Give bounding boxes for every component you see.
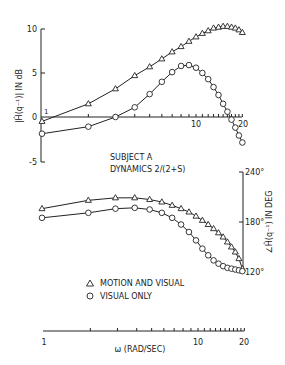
- phase-plot: 240° 180° 120° ∠Ĥ(q⁻¹) IN DEG: [39, 168, 274, 277]
- circle-marker-icon: [193, 238, 199, 244]
- circle-marker-icon: [169, 69, 175, 75]
- frequency-axis: 1 10 20 ω (RAD/SEC): [41, 328, 249, 354]
- circle-marker-icon: [178, 222, 184, 228]
- mag-y-label: |Ĥ(q⁻¹)| IN dB: [13, 69, 24, 123]
- triangle-marker-icon: [199, 217, 205, 222]
- circle-marker-icon: [113, 114, 119, 120]
- circle-marker-icon: [132, 205, 138, 211]
- triangle-marker-icon: [186, 38, 192, 43]
- circle-marker-icon: [225, 109, 231, 115]
- circle-marker-icon: [200, 246, 206, 252]
- circle-marker-icon: [159, 210, 165, 216]
- circle-marker-icon: [200, 70, 206, 76]
- circle-marker-icon: [132, 105, 138, 111]
- triangle-marker-icon: [147, 64, 153, 69]
- curve-line: [42, 26, 242, 121]
- circle-marker-icon: [240, 268, 246, 274]
- legend: MOTION AND VISUAL VISUAL ONLY: [87, 279, 185, 301]
- mag-tick-label: 0: [32, 113, 37, 122]
- freq-axis-title: ω (RAD/SEC): [115, 345, 166, 354]
- circle-marker-icon: [113, 206, 119, 212]
- circle-marker-icon: [178, 63, 184, 69]
- circle-marker-icon: [147, 207, 153, 213]
- circle-marker-icon: [240, 140, 246, 146]
- circle-marker-icon: [193, 65, 199, 71]
- circle-marker-icon: [87, 293, 93, 299]
- circle-marker-icon: [169, 215, 175, 221]
- triangle-marker-icon: [205, 221, 211, 226]
- magnitude-plot: 10 5 0 -5 1 10 20 |Ĥ(q⁻¹)| IN dB: [13, 23, 248, 167]
- triangle-marker-icon: [236, 255, 242, 260]
- mag-x-label-10: 10: [191, 120, 201, 129]
- curve-line: [42, 65, 242, 142]
- freq-x-label-10: 10: [193, 338, 203, 347]
- circle-marker-icon: [220, 101, 226, 107]
- circle-marker-icon: [39, 131, 45, 137]
- phase-curves: [39, 195, 245, 274]
- circle-marker-icon: [86, 124, 92, 130]
- circle-marker-icon: [216, 92, 222, 98]
- mag-tick-label: 10: [27, 25, 37, 34]
- mag-x-label-1: 1: [44, 108, 48, 116]
- circle-marker-icon: [211, 258, 217, 264]
- freq-x-label-20: 20: [239, 338, 249, 347]
- mag-tick-label: 5: [32, 69, 37, 78]
- circle-marker-icon: [159, 79, 165, 85]
- mag-tick-label: -5: [29, 158, 37, 167]
- triangle-marker-icon: [132, 72, 138, 77]
- bode-plot: 10 5 0 -5 1 10 20 |Ĥ(q⁻¹)| IN dB SUBJECT…: [0, 0, 285, 365]
- mag-x-label-20: 20: [238, 120, 248, 129]
- triangle-marker-icon: [132, 195, 138, 200]
- triangle-marker-icon: [87, 280, 94, 286]
- circle-marker-icon: [186, 62, 192, 68]
- circle-marker-icon: [205, 253, 211, 259]
- triangle-marker-icon: [169, 49, 175, 54]
- legend-visual-only: VISUAL ONLY: [100, 292, 152, 301]
- subject-label: SUBJECT A: [110, 153, 153, 162]
- circle-marker-icon: [147, 91, 153, 97]
- circle-marker-icon: [205, 76, 211, 82]
- triangle-marker-icon: [159, 56, 165, 61]
- circle-marker-icon: [86, 210, 92, 216]
- triangle-marker-icon: [112, 195, 118, 200]
- freq-x-label-1: 1: [41, 338, 46, 347]
- triangle-marker-icon: [112, 86, 118, 91]
- dynamics-label: DYNAMICS 2/(2+S): [110, 165, 185, 174]
- circle-marker-icon: [211, 84, 217, 90]
- circle-marker-icon: [186, 229, 192, 235]
- phase-y-label: ∠Ĥ(q⁻¹) IN DEG: [263, 191, 274, 254]
- phase-tick-label: 240°: [245, 168, 264, 177]
- circle-marker-icon: [236, 133, 242, 139]
- circle-marker-icon: [233, 125, 239, 131]
- phase-tick-label: 120°: [245, 268, 264, 277]
- mag-curves: [39, 23, 245, 145]
- triangle-marker-icon: [178, 43, 184, 48]
- legend-motion-visual: MOTION AND VISUAL: [100, 279, 185, 288]
- phase-tick-label: 180°: [245, 218, 264, 227]
- triangle-marker-icon: [193, 213, 199, 218]
- circle-marker-icon: [229, 117, 235, 123]
- circle-marker-icon: [39, 215, 45, 221]
